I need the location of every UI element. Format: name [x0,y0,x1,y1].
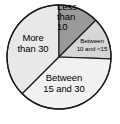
pie-chart-graphic [0,0,120,124]
pie-chart: Less than 10 Between 10 and <15 More tha… [0,0,120,124]
